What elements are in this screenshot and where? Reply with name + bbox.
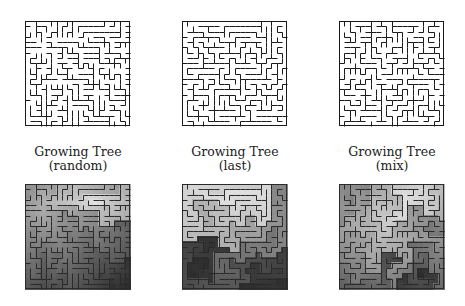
caption-mix: Growing Tree (mix): [317, 145, 465, 173]
caption-variant: (random): [3, 159, 153, 173]
caption-title: Growing Tree: [3, 145, 153, 159]
heatmap-last: [182, 184, 288, 290]
heatmap-random: [25, 184, 131, 290]
caption-last: Growing Tree (last): [160, 145, 310, 173]
maze-random: [25, 21, 131, 127]
caption-variant: (last): [160, 159, 310, 173]
maze-mix: [339, 21, 445, 127]
caption-title: Growing Tree: [317, 145, 465, 159]
caption-title: Growing Tree: [160, 145, 310, 159]
maze-last: [182, 21, 288, 127]
caption-random: Growing Tree (random): [3, 145, 153, 173]
caption-variant: (mix): [317, 159, 465, 173]
heatmap-mix: [339, 184, 445, 290]
